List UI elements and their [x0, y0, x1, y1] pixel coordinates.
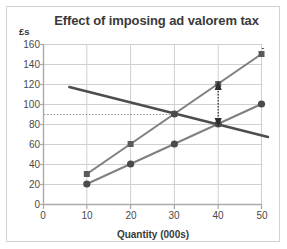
data-point-marker	[83, 180, 90, 187]
data-point-marker	[127, 160, 134, 167]
data-point-marker	[128, 141, 134, 147]
data-point-marker	[84, 171, 90, 177]
data-point-marker	[258, 100, 265, 107]
equilibrium-point-marker	[171, 111, 178, 118]
data-point-marker	[171, 140, 178, 147]
plot-area	[0, 0, 287, 249]
chart-container: Effect of imposing ad valorem tax £s Qua…	[0, 0, 287, 249]
y-axis-ticks	[39, 45, 43, 205]
data-point-marker	[259, 51, 265, 57]
